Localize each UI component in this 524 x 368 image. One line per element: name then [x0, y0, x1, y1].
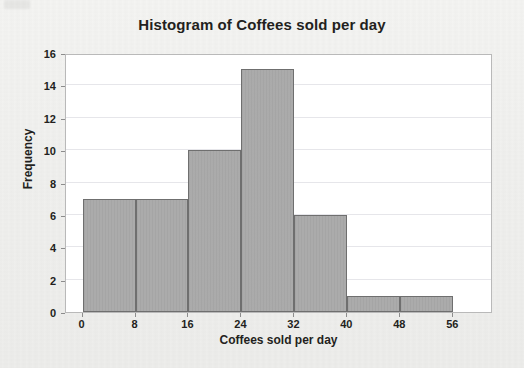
x-axis-tick-label: 48	[393, 318, 405, 330]
x-axis-tick-mark	[135, 313, 136, 317]
y-axis-tick-label: 10	[32, 145, 60, 157]
x-axis-tick-label: 0	[78, 318, 84, 330]
page-title: Histogram of Coffees sold per day	[0, 16, 524, 33]
y-axis-tick-label: 8	[32, 178, 60, 190]
y-axis-tick-mark	[61, 248, 65, 249]
histogram-bar	[83, 199, 136, 312]
x-axis-tick-label: 56	[446, 318, 458, 330]
x-axis-tick-label: 16	[181, 318, 193, 330]
histogram-bar	[188, 150, 241, 312]
x-axis-tick-label: 40	[340, 318, 352, 330]
scan-artifact	[4, 0, 30, 9]
plot-area	[65, 54, 492, 313]
y-axis-tick-mark	[61, 86, 65, 87]
x-axis-tick-label: 32	[287, 318, 299, 330]
x-axis-tick-label: 8	[131, 318, 137, 330]
histogram-figure: Histogram of Coffees sold per day 024681…	[0, 0, 524, 368]
histogram-bar	[241, 69, 294, 312]
x-axis-tick-mark	[82, 313, 83, 317]
y-axis-tick-mark	[61, 151, 65, 152]
y-axis-tick-label: 12	[32, 113, 60, 125]
bars-layer	[66, 55, 491, 312]
x-axis-tick-mark	[240, 313, 241, 317]
x-axis-tick-mark	[293, 313, 294, 317]
y-axis-tick-label: 6	[32, 210, 60, 222]
x-axis-title: Coffees sold per day	[65, 333, 492, 347]
x-axis-tick-labels: 08162432404856	[65, 316, 492, 334]
y-axis-tick-mark	[61, 119, 65, 120]
y-axis-tick-label: 14	[32, 80, 60, 92]
histogram-bar	[136, 199, 189, 312]
histogram-bar	[294, 215, 347, 312]
x-axis-tick-mark	[399, 313, 400, 317]
x-axis-tick-mark	[452, 313, 453, 317]
histogram-bar	[400, 296, 453, 312]
histogram-bar	[347, 296, 400, 312]
y-axis-tick-mark	[61, 184, 65, 185]
y-axis-tick-mark	[61, 54, 65, 55]
y-axis-tick-mark	[61, 313, 65, 314]
y-axis-tick-marks	[61, 54, 66, 313]
y-axis-tick-label: 4	[32, 242, 60, 254]
y-axis-tick-mark	[61, 281, 65, 282]
y-axis-tick-mark	[61, 216, 65, 217]
x-axis-tick-mark	[187, 313, 188, 317]
x-axis-tick-label: 24	[234, 318, 246, 330]
x-axis-tick-mark	[346, 313, 347, 317]
y-axis-title: Frequency	[21, 104, 35, 214]
y-axis-tick-label: 16	[32, 48, 60, 60]
y-axis-tick-label: 2	[32, 275, 60, 287]
y-axis-tick-labels: 0246810121416	[32, 54, 60, 313]
y-axis-tick-label: 0	[32, 307, 60, 319]
